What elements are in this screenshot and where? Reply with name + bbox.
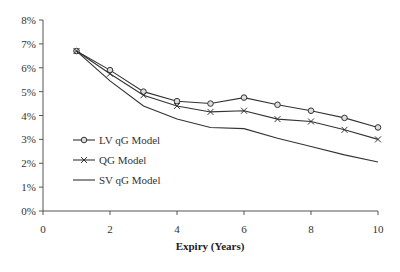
x-tick-label: 8	[308, 223, 314, 235]
circle-marker-icon	[81, 137, 87, 143]
x-tick-label: 10	[373, 223, 385, 235]
y-tick-label: 5%	[21, 86, 36, 98]
legend-label: LV qG Model	[99, 134, 160, 146]
circle-marker-icon	[275, 102, 281, 108]
axes	[43, 20, 378, 211]
legend: LV qG ModelQG ModelSV qG Model	[73, 134, 161, 186]
circle-marker-icon	[241, 95, 247, 101]
x-axis-ticks: 0246810	[40, 211, 384, 235]
y-tick-label: 4%	[21, 110, 36, 122]
y-tick-label: 0%	[21, 205, 36, 217]
circle-marker-icon	[174, 98, 180, 104]
line-chart: 0%1%2%3%4%5%6%7%8% 0246810 Expiry (Years…	[0, 0, 400, 272]
y-tick-label: 2%	[21, 157, 36, 169]
series-lv-qg-model	[74, 48, 381, 130]
x-tick-label: 2	[107, 223, 113, 235]
legend-item: QG Model	[73, 154, 146, 166]
legend-label: SV qG Model	[99, 174, 161, 186]
x-tick-label: 6	[241, 223, 247, 235]
y-tick-label: 3%	[21, 133, 36, 145]
legend-item: SV qG Model	[73, 174, 161, 186]
legend-label: QG Model	[99, 154, 146, 166]
circle-marker-icon	[308, 108, 314, 114]
x-marker-icon	[375, 136, 381, 142]
y-tick-label: 1%	[21, 181, 36, 193]
circle-marker-icon	[342, 115, 348, 121]
y-tick-label: 6%	[21, 62, 36, 74]
y-tick-label: 7%	[21, 38, 36, 50]
x-tick-label: 4	[174, 223, 180, 235]
x-tick-label: 0	[40, 223, 46, 235]
circle-marker-icon	[208, 101, 214, 107]
circle-marker-icon	[375, 125, 381, 131]
legend-item: LV qG Model	[73, 134, 160, 146]
y-tick-label: 8%	[21, 14, 36, 26]
x-axis-title: Expiry (Years)	[176, 240, 245, 253]
y-axis-ticks: 0%1%2%3%4%5%6%7%8%	[21, 14, 43, 217]
